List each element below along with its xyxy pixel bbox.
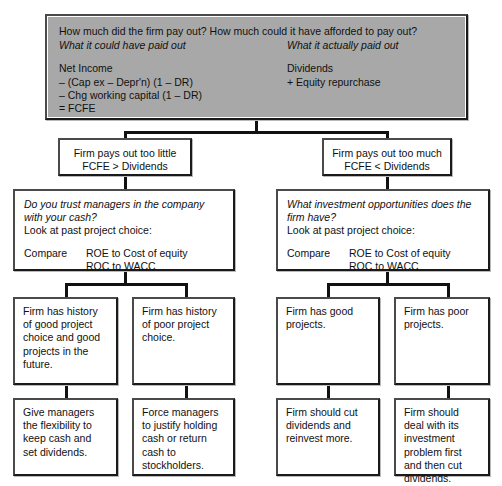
header-right-formula: Dividends + Equity repurchase [287, 62, 454, 115]
connector-left-verdict-to-question [124, 176, 127, 190]
node-left-action-force-justify: Force managers to justify holding cash o… [132, 398, 235, 476]
connector-left-question-bus [65, 283, 188, 286]
right-outcome-a-text: Firm has good projects. [286, 305, 370, 331]
node-right-action-fix-investment-then-cut: Firm should deal with its investment pro… [394, 398, 490, 476]
connector-header-bus [124, 131, 389, 134]
header-left-formula: Net Income – (Cap ex – Depr'n) (1 – DR) … [59, 62, 287, 115]
right-question-line-2: firm have? [287, 211, 479, 224]
left-question-instruction: Look at past project choice: [24, 224, 224, 237]
left-outcome-a-text: Firm has history of good project choice … [23, 305, 108, 371]
connector-left-outcome-a-to-action [65, 385, 68, 399]
left-outcome-b-text: Firm has history of poor project choice. [142, 305, 225, 345]
node-left-outcome-poor-history: Firm has history of poor project choice. [132, 297, 235, 385]
right-outcome-b-text: Firm has poor projects. [404, 305, 480, 331]
right-question-line-1: What investment opportunities does the [287, 198, 479, 211]
header-left-line-2: – Chg working capital (1 – DR) [59, 89, 287, 102]
node-left-outcome-good-history: Firm has history of good project choice … [13, 297, 118, 385]
connector-right-question-to-outcome-a [327, 283, 330, 298]
connector-left-question-to-outcome-a [65, 283, 68, 298]
left-verdict-line-2: FCFE > Dividends [67, 160, 183, 173]
node-right-verdict-pays-too-much: Firm pays out too much FCFE < Dividends [322, 138, 452, 176]
left-compare-label: Compare [24, 247, 86, 273]
header-spacer [59, 52, 454, 62]
header-left-line-3: = FCFE [59, 102, 287, 115]
header-right-line-1: + Equity repurchase [287, 76, 454, 89]
connector-left-question-to-outcome-b [185, 283, 188, 298]
header-question: How much did the firm pay out? How much … [59, 25, 454, 38]
right-compare-line-2: ROC to WACC [349, 260, 479, 273]
node-header-payout-question: How much did the firm pay out? How much … [45, 14, 468, 120]
connector-right-question-bus [327, 283, 450, 286]
node-left-action-give-flexibility: Give managers the flexibility to keep ca… [13, 398, 118, 476]
connector-left-outcome-b-to-action [185, 385, 188, 399]
right-question-instruction: Look at past project choice: [287, 224, 479, 237]
left-question-line-2: with your cash? [24, 211, 224, 224]
header-left-caption: What it could have paid out [59, 39, 287, 52]
header-left-line-0: Net Income [59, 62, 287, 75]
connector-right-verdict-to-question [386, 176, 389, 190]
node-right-question-investment-opportunities: What investment opportunities does the f… [276, 189, 490, 271]
node-left-verdict-pays-too-little: Firm pays out too little FCFE > Dividend… [58, 138, 192, 176]
node-right-outcome-poor-projects: Firm has poor projects. [394, 297, 490, 385]
connector-right-outcome-a-to-action [327, 385, 330, 399]
left-action-a-text: Give managers the flexibility to keep ca… [23, 406, 108, 459]
connector-right-outcome-b-to-action [447, 385, 450, 399]
left-compare-line-1: ROE to Cost of equity [86, 247, 224, 260]
right-compare-line-1: ROE to Cost of equity [349, 247, 479, 260]
node-left-question-trust-managers: Do you trust managers in the company wit… [13, 189, 235, 271]
node-right-action-cut-dividends-reinvest: Firm should cut dividends and reinvest m… [276, 398, 380, 476]
right-action-a-text: Firm should cut dividends and reinvest m… [286, 406, 370, 446]
right-verdict-line-2: FCFE < Dividends [331, 160, 443, 173]
flowchart-canvas: How much did the firm pay out? How much … [0, 0, 502, 486]
left-verdict-line-1: Firm pays out too little [67, 147, 183, 160]
left-action-b-text: Force managers to justify holding cash o… [142, 406, 225, 472]
node-right-outcome-good-projects: Firm has good projects. [276, 297, 380, 385]
left-compare-line-2: ROC to WACC [86, 260, 224, 273]
left-question-line-1: Do you trust managers in the company [24, 198, 224, 211]
connector-right-question-to-outcome-b [447, 283, 450, 298]
header-right-line-0: Dividends [287, 62, 454, 75]
header-right-caption: What it actually paid out [287, 39, 454, 52]
right-verdict-line-1: Firm pays out too much [331, 147, 443, 160]
right-compare-label: Compare [287, 247, 349, 273]
right-action-b-text: Firm should deal with its investment pro… [404, 406, 480, 485]
header-left-line-1: – (Cap ex – Depr'n) (1 – DR) [59, 76, 287, 89]
